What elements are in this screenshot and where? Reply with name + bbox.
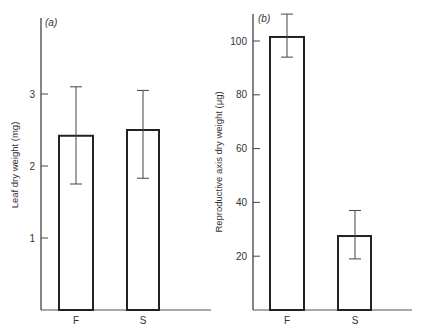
- y-tick-label: 40: [236, 197, 248, 208]
- y-tick-label: 3: [29, 89, 35, 100]
- y-axis-title: Reproductive axis dry weight (μg): [213, 91, 224, 232]
- x-category-label: F: [284, 315, 290, 326]
- panel-label: (b): [258, 13, 270, 24]
- y-tick-label: 100: [230, 36, 247, 47]
- x-category-label: S: [352, 315, 359, 326]
- y-tick-label: 2: [29, 161, 35, 172]
- chart-panel-b: 20406080100(b)Reproductive axis dry weig…: [213, 13, 412, 326]
- x-category-label: F: [73, 315, 79, 326]
- chart-figure: 123(a)Leaf dry weight (mg)FS20406080100(…: [0, 0, 421, 329]
- y-tick-label: 60: [236, 143, 248, 154]
- x-category-label: S: [140, 315, 147, 326]
- y-axis-title: Leaf dry weight (mg): [9, 122, 20, 209]
- y-tick-label: 1: [29, 233, 35, 244]
- panel-label: (a): [45, 17, 57, 28]
- y-tick-label: 80: [236, 89, 248, 100]
- bar-F: [270, 37, 304, 310]
- y-tick-label: 20: [236, 251, 248, 262]
- chart-panel-a: 123(a)Leaf dry weight (mg)FS: [9, 17, 211, 326]
